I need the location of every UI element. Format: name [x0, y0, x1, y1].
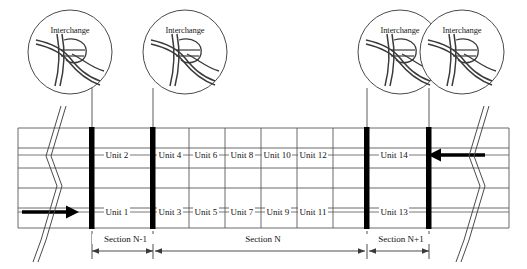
unit-label-lower: Unit 9 — [265, 207, 291, 217]
unit-label-lower: Unit 11 — [298, 207, 328, 217]
callout-circle-1 — [28, 10, 112, 94]
unit-label-lower: Unit 13 — [379, 207, 409, 217]
callout-circle-4 — [420, 10, 504, 94]
unit-label-upper: Unit 10 — [262, 150, 292, 160]
callout-circle-2 — [143, 10, 227, 94]
section-label-n-plus-1: Section N+1 — [366, 234, 436, 244]
callout-label-3: Interchange — [370, 25, 430, 35]
unit-label-upper: Unit 14 — [379, 150, 409, 160]
unit-label-upper: Unit 6 — [193, 150, 219, 160]
unit-label-lower: Unit 7 — [229, 207, 255, 217]
diagram-canvas: Interchange Interchange Interchange Inte… — [0, 0, 527, 269]
unit-label-upper: Unit 4 — [157, 150, 183, 160]
break-symbol-right — [456, 106, 489, 262]
break-symbol-left — [33, 106, 66, 262]
unit-label-lower: Unit 3 — [157, 207, 183, 217]
unit-label-upper: Unit 8 — [229, 150, 255, 160]
unit-label-lower: Unit 5 — [193, 207, 219, 217]
callout-label-2: Interchange — [155, 25, 215, 35]
section-label-n: Section N — [230, 234, 296, 244]
unit-label-upper: Unit 12 — [298, 150, 328, 160]
callout-label-1: Interchange — [40, 25, 100, 35]
callout-label-4: Interchange — [432, 25, 492, 35]
flow-arrow-westbound — [428, 149, 485, 162]
unit-label-upper: Unit 2 — [104, 150, 130, 160]
unit-label-lower: Unit 1 — [104, 207, 130, 217]
callout-leader-lines — [92, 88, 429, 128]
section-label-n-minus-1: Section N-1 — [92, 234, 159, 244]
diagram-svg — [0, 0, 527, 269]
